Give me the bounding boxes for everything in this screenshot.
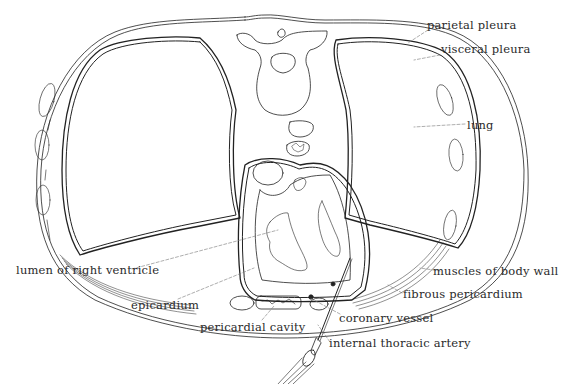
thorax-cross-section-diagram: parietal pleura visceral pleura lung lum… [0, 0, 563, 384]
vertebra [237, 29, 327, 156]
label-visceral-pleura: visceral pleura [441, 42, 531, 56]
label-muscles-of-body-wall: muscles of body wall [433, 264, 558, 278]
label-fibrous-pericardium: fibrous pericardium [403, 287, 523, 301]
sternum-region [230, 282, 335, 310]
left-body-wall-muscles [35, 82, 196, 314]
heart-chambers [253, 161, 350, 283]
label-coronary-vessel: coronary vessel [339, 311, 433, 325]
label-epicardium: epicardium [131, 298, 199, 312]
left-lung-outline [62, 37, 240, 255]
label-lumen-of-right-ventricle: lumen of right ventricle [16, 263, 159, 277]
label-internal-thoracic-artery: internal thoracic artery [329, 336, 471, 350]
label-lung: lung [467, 118, 494, 132]
label-parietal-pleura: parietal pleura [427, 18, 517, 32]
right-lung-outline [334, 38, 480, 248]
label-pericardial-cavity: pericardial cavity [200, 320, 306, 334]
